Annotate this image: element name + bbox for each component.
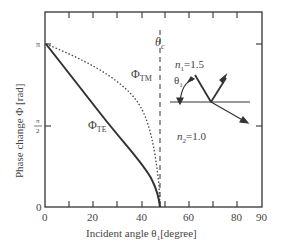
arrowhead-icon: [240, 117, 248, 123]
xtick-20: 20: [87, 211, 99, 223]
y-axis-title: Phase change Φ [rad]: [13, 84, 25, 178]
x-axis-title: Incident angle θ1[degree]: [86, 227, 197, 242]
n1-label: n1=1.5: [175, 58, 204, 73]
ytick-half-num: π: [36, 117, 40, 125]
x-axis-ticks: [69, 12, 237, 207]
phase-change-chart: θc ΦTM ΦTE n1=1.5 θ1 n2=1.0 π π 2 0 0 20…: [0, 0, 282, 245]
theta-c-label: θc: [155, 35, 165, 51]
xtick-60: 60: [183, 211, 195, 223]
transmitted-ray: [211, 102, 246, 122]
plot-frame: [45, 12, 262, 207]
incident-ray: [195, 75, 211, 102]
arrowhead-icon: [188, 77, 194, 82]
xtick-80: 80: [231, 211, 243, 223]
xtick-40: 40: [136, 211, 148, 223]
xtick-90: 90: [256, 211, 268, 223]
xtick-0: 0: [42, 211, 48, 223]
theta1-label: θ1: [174, 74, 183, 89]
ytick-pi: π: [36, 40, 40, 49]
phi-te-label: ΦTE: [88, 118, 107, 134]
phi-tm-label: ΦTM: [131, 67, 152, 83]
arrowhead-icon: [177, 98, 183, 104]
ytick-half-den: 2: [36, 127, 40, 135]
n2-label: n2=1.0: [177, 130, 206, 145]
arrowhead-icon: [220, 75, 226, 83]
